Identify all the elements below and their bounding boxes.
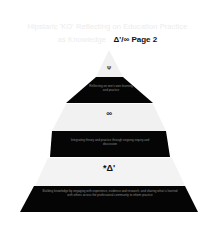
level-2-text: Reflecting on one's own learning and pra… [88, 84, 134, 92]
level-3-symbol: ∞ [95, 109, 123, 118]
level-4-text: Integrating theory and practice through … [65, 138, 155, 146]
pyramid-level-1 [96, 50, 123, 77]
level-1-symbol: Ψ [95, 65, 123, 71]
level-5-symbol: *Δ' [92, 163, 126, 173]
level-6-text: Building knowledge by engaging with expe… [40, 189, 180, 197]
